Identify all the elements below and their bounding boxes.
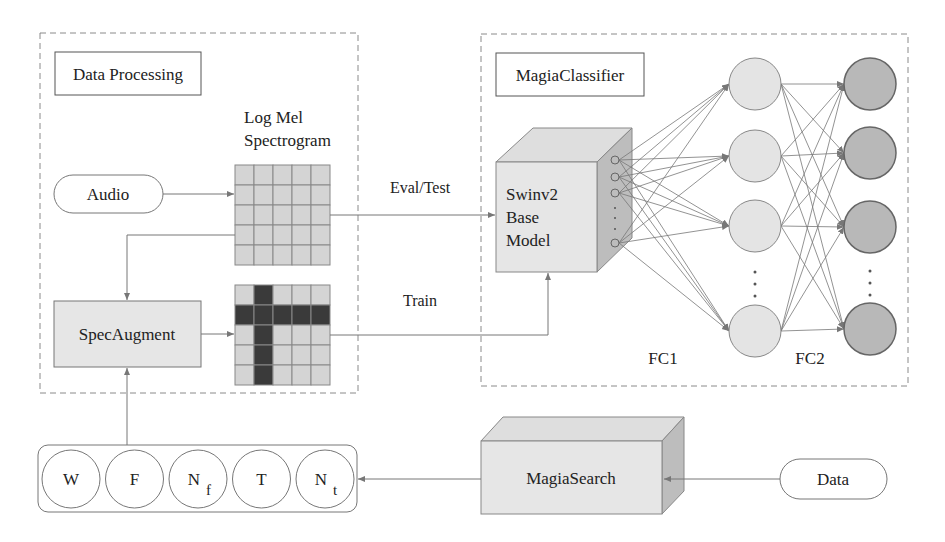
spectrogram-cell	[273, 165, 292, 185]
spectrogram-cell	[311, 305, 330, 325]
fc1-node	[729, 305, 781, 357]
spectrogram-cell	[273, 205, 292, 225]
architecture-diagram: Data Processing Log Mel Spectrogram Audi…	[0, 0, 945, 542]
ellipsis-dot	[754, 271, 757, 274]
spectrogram-cell	[254, 285, 273, 305]
spectrogram-cell	[235, 185, 254, 205]
spectrogram-cell	[235, 225, 254, 245]
specaugment-label: SpecAugment	[79, 325, 176, 344]
param-label: W	[63, 470, 80, 489]
param-label: N	[315, 470, 327, 489]
model-label-2: Base	[506, 208, 539, 227]
spectrogram-cell	[254, 205, 273, 225]
spectrogram-cell	[292, 285, 311, 305]
log-mel-spectrogram-grid	[235, 165, 330, 265]
spectrogram-cell	[254, 365, 273, 385]
spectrogram-cell	[292, 165, 311, 185]
fc1-node	[729, 200, 781, 252]
spectrogram-cell	[273, 285, 292, 305]
ellipsis-dot	[754, 295, 757, 298]
model-label-1: Swinv2	[506, 185, 558, 204]
audio-label: Audio	[87, 185, 130, 204]
spectrogram-cell	[235, 245, 254, 265]
ellipsis-dot	[869, 270, 872, 273]
spectrogram-cell	[235, 365, 254, 385]
spectrogram-cell	[311, 345, 330, 365]
spectrogram-cell	[311, 165, 330, 185]
spectrogram-cell	[292, 185, 311, 205]
spectrogram-cell	[235, 205, 254, 225]
spectrogram-cell	[292, 205, 311, 225]
spectrogram-cell	[292, 225, 311, 245]
param-label: F	[130, 470, 139, 489]
spectrogram-to-specaugment-arrow	[127, 235, 235, 300]
spectrogram-cell	[311, 365, 330, 385]
spectrogram-cell	[311, 325, 330, 345]
spectrogram-cell	[254, 305, 273, 325]
spectrogram-cell	[292, 245, 311, 265]
eval-test-label: Eval/Test	[390, 179, 451, 196]
spectrogram-cell	[273, 225, 292, 245]
spectrogram-cell	[235, 165, 254, 185]
fc2-label: FC2	[795, 349, 824, 368]
spectrogram-cell	[254, 245, 273, 265]
fc2-node	[844, 303, 896, 355]
data-label: Data	[817, 470, 850, 489]
spectrogram-cell	[235, 345, 254, 365]
spectrogram-cell	[292, 345, 311, 365]
spectrogram-cell	[254, 225, 273, 245]
param-subscript: f	[206, 482, 211, 498]
ellipsis-dot	[869, 294, 872, 297]
ellipsis-dot	[754, 283, 757, 286]
param-label: N	[188, 470, 200, 489]
magiasearch-cube	[481, 417, 684, 514]
spectrogram-cell	[292, 325, 311, 345]
spectrogram-cell	[273, 345, 292, 365]
spectrogram-cell	[235, 325, 254, 345]
ellipsis-dot	[869, 282, 872, 285]
spectrogram-cell	[292, 365, 311, 385]
fc-connections	[619, 84, 844, 331]
spectrogram-cell	[311, 185, 330, 205]
augment-params: WFNfTNt	[42, 450, 354, 508]
spectrogram-cell	[273, 365, 292, 385]
spectrogram-cell	[254, 345, 273, 365]
spectrogram-cell	[235, 285, 254, 305]
classifier-title: MagiaClassifier	[516, 66, 625, 85]
spectrogram-cell	[273, 325, 292, 345]
fc2-node	[844, 58, 896, 110]
spectrogram-cell	[273, 305, 292, 325]
ellipsis-dot	[614, 207, 616, 209]
fc2-node	[844, 127, 896, 179]
spectrogram-cell	[254, 165, 273, 185]
spectrogram-cell	[311, 245, 330, 265]
spectrogram-cell	[273, 185, 292, 205]
fc1-node	[729, 130, 781, 182]
spectrogram-cell	[311, 285, 330, 305]
fc1-label: FC1	[648, 349, 677, 368]
spectrogram-title-2: Spectrogram	[244, 131, 331, 150]
spectrogram-cell	[254, 325, 273, 345]
data-processing-title: Data Processing	[73, 65, 184, 84]
model-label-3: Model	[506, 231, 551, 250]
spectrogram-cell	[292, 305, 311, 325]
spectrogram-cell	[311, 225, 330, 245]
ellipsis-dot	[614, 228, 616, 230]
ellipsis-dot	[614, 217, 616, 219]
spectrogram-cell	[311, 205, 330, 225]
train-arrow	[330, 273, 548, 335]
spectrogram-title-1: Log Mel	[244, 108, 303, 127]
augmented-spectrogram-grid	[235, 285, 330, 385]
train-label: Train	[403, 292, 437, 309]
spectrogram-cell	[273, 245, 292, 265]
spectrogram-cell	[254, 185, 273, 205]
spectrogram-cell	[235, 305, 254, 325]
param-label: T	[256, 470, 267, 489]
fc2-node	[844, 201, 896, 253]
magiasearch-label: MagiaSearch	[526, 469, 616, 488]
fc1-node	[729, 58, 781, 110]
